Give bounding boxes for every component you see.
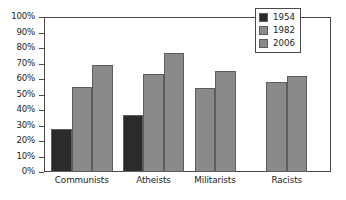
- legend-item: 1954: [259, 11, 295, 24]
- bar-slot: [92, 17, 113, 172]
- bar: [123, 115, 144, 172]
- y-axis-tick-label: 0%: [22, 166, 35, 176]
- y-axis-tick-label: 10%: [16, 151, 35, 161]
- bar-slot: [51, 17, 72, 172]
- y-axis-tick-mark: [39, 172, 44, 173]
- bar-slot: [143, 17, 164, 172]
- bar-slot: [195, 17, 216, 172]
- legend-swatch-icon: [259, 13, 268, 22]
- y-axis-tick-label: 80%: [16, 42, 35, 52]
- y-axis-tick-label: 20%: [16, 135, 35, 145]
- bar: [287, 76, 308, 172]
- legend-item-label: 1954: [273, 13, 295, 22]
- y-axis-tick-label: 70%: [16, 58, 35, 68]
- y-axis-tick-label: 90%: [16, 27, 35, 37]
- bar: [215, 71, 236, 172]
- legend: 195419822006: [255, 8, 301, 53]
- y-axis-tick-label: 40%: [16, 104, 35, 114]
- y-axis-tick-label: 30%: [16, 120, 35, 130]
- legend-item: 2006: [259, 37, 295, 50]
- bar: [92, 65, 113, 172]
- bar: [266, 82, 287, 172]
- y-axis: 100%90%80%70%60%50%40%30%20%10%0%: [0, 17, 44, 172]
- bar-slot: [72, 17, 93, 172]
- bar-slot: [215, 17, 236, 172]
- bar-slot: [164, 17, 185, 172]
- y-axis-tick-label: 100%: [11, 11, 35, 21]
- bar-group: [44, 17, 116, 172]
- bar-group: [116, 17, 188, 172]
- x-axis-labels: CommunistsAtheistsMilitaristsRacists: [44, 175, 331, 195]
- bar-chart: 100%90%80%70%60%50%40%30%20%10%0% Commun…: [0, 0, 346, 200]
- x-axis-label: Racists: [242, 175, 332, 185]
- legend-item: 1982: [259, 24, 295, 37]
- y-axis-tick-label: 50%: [16, 89, 35, 99]
- bar-slot: [123, 17, 144, 172]
- bar: [51, 129, 72, 172]
- bar: [164, 53, 185, 172]
- legend-item-label: 2006: [273, 39, 295, 48]
- bar: [195, 88, 216, 172]
- bar-group: [188, 17, 260, 172]
- y-axis-tick-label: 60%: [16, 73, 35, 83]
- legend-swatch-icon: [259, 26, 268, 35]
- bar: [72, 87, 93, 172]
- bar: [143, 74, 164, 172]
- legend-item-label: 1982: [273, 26, 295, 35]
- legend-swatch-icon: [259, 39, 268, 48]
